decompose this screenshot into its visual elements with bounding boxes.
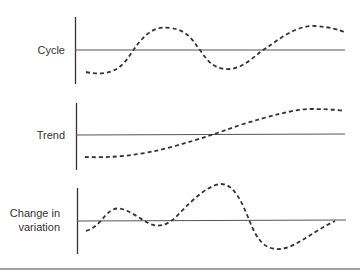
trend-curve <box>85 109 343 157</box>
panel-trend <box>76 103 345 170</box>
variation-baseline <box>77 220 346 221</box>
panel-cycle <box>75 17 345 84</box>
panel-change-in-variation <box>77 184 346 254</box>
variation-curve <box>86 184 335 249</box>
diagram-canvas <box>0 0 360 276</box>
